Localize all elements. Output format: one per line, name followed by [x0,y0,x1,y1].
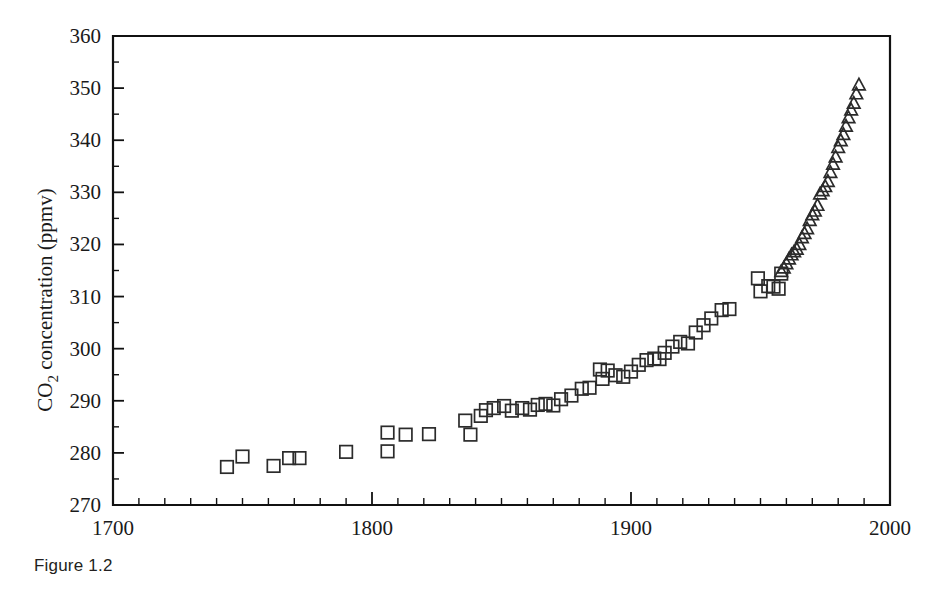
data-point-square [459,414,472,427]
data-markers [221,78,865,473]
y-tick-label: 290 [70,389,102,413]
data-point-triangle [853,78,866,90]
data-point-square [236,450,249,463]
data-point-square [267,460,280,473]
data-point-square [399,428,412,441]
figure-caption: Figure 1.2 [34,556,113,576]
svg-text:CO2 concentration (ppmv): CO2 concentration (ppmv) [33,188,61,411]
data-point-triangle [850,87,863,99]
y-axis-title-subscript: 2 [45,375,61,383]
data-point-triangle [827,158,840,170]
data-point-triangle [842,111,855,123]
y-tick-label: 280 [70,441,102,465]
data-point-square [340,446,353,459]
data-point-triangle [824,166,837,178]
x-tick-label: 1900 [610,516,652,540]
series-triangle [775,78,865,276]
y-axis-title-post: concentration (ppmv) [33,188,57,375]
data-point-square [221,461,234,474]
y-axis-tick-labels: 270280290300310320330340350360 [70,24,102,517]
y-tick-label: 360 [70,24,102,48]
series-square [221,267,788,473]
y-axis-title: CO2 concentration (ppmv) [33,188,61,411]
data-point-square [381,445,394,458]
data-point-square [464,428,477,441]
data-point-triangle [832,141,845,153]
axis-ticks [113,36,890,505]
y-tick-label: 330 [70,180,102,204]
y-tick-label: 300 [70,337,102,361]
x-tick-label: 1700 [92,516,134,540]
y-tick-label: 270 [70,493,102,517]
co2-concentration-chart: CO2 concentration (ppmv) 270280290300310… [0,0,941,599]
data-point-triangle [840,120,853,131]
y-tick-label: 310 [70,285,102,309]
data-point-square [381,426,394,439]
data-point-triangle [845,103,858,115]
y-tick-label: 350 [70,76,102,100]
plot-frame [113,36,890,505]
figure-container: CO2 concentration (ppmv) 270280290300310… [0,0,941,599]
y-axis-title-pre: CO [33,382,57,411]
x-axis-tick-labels: 1700180019002000 [92,516,911,540]
y-tick-label: 340 [70,128,102,152]
data-point-square [423,428,436,441]
y-tick-label: 320 [70,232,102,256]
x-tick-label: 1800 [351,516,393,540]
x-tick-label: 2000 [869,516,911,540]
data-point-square [754,285,767,298]
